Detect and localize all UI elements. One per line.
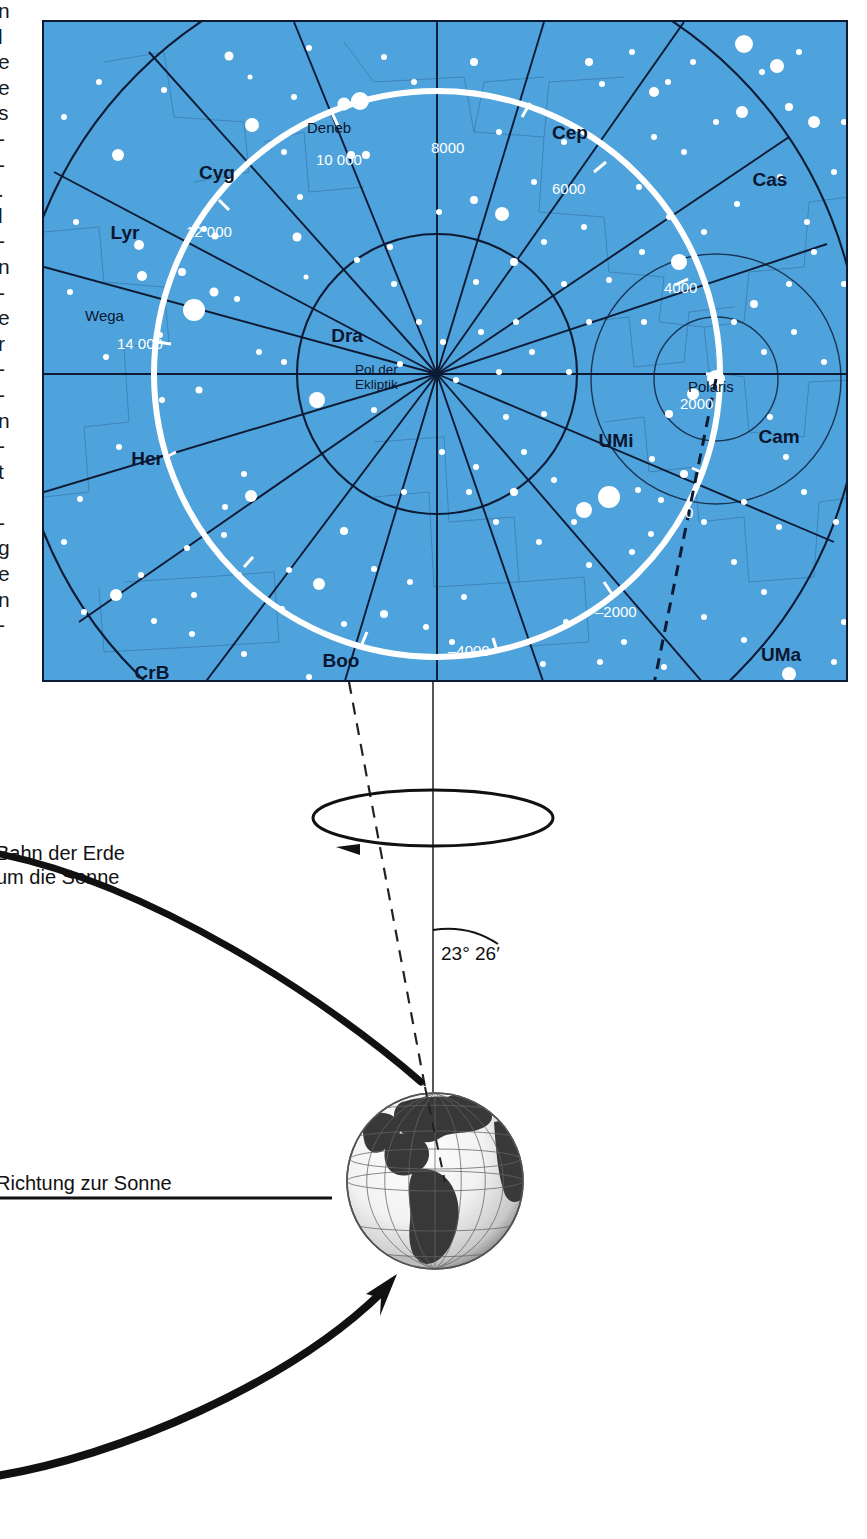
facing-page-char: e [0, 77, 10, 103]
facing-page-char: t [0, 461, 4, 487]
facing-page-char: e [0, 51, 10, 77]
precession-year-8000: 8000 [431, 139, 464, 156]
precession-year-6000: 6000 [552, 180, 585, 197]
star-chart-canvas: Cyg Lyr Cep Cas Dra Her UMi Cam CrB Boo … [44, 22, 848, 682]
facing-page-char: g [0, 537, 10, 563]
precession-direction-arrowhead [336, 844, 360, 855]
orbit-motion-arrowhead [366, 1274, 397, 1316]
obliquity-angle-arc [433, 929, 498, 944]
precession-year-10000: 10 000 [316, 151, 362, 168]
constellation-label-dra: Dra [331, 325, 363, 346]
ecliptic-pole-label-line1: Pol der [355, 362, 398, 377]
earth-axis-canvas: Bahn der Erde um die Sonne Richtung zur … [0, 682, 867, 1539]
facing-page-char: s [0, 102, 9, 128]
facing-page-char: - [0, 230, 5, 256]
star-label-deneb: Deneb [307, 119, 351, 136]
orbit-label-line2: um die Sonne [0, 866, 119, 888]
facing-page-char: n [0, 256, 10, 282]
orbit-label-line1: Bahn der Erde [0, 842, 125, 864]
facing-page-char: . [0, 179, 4, 205]
facing-page-char: n [0, 589, 10, 615]
constellation-label-her: Her [131, 448, 163, 469]
chart-background [44, 22, 848, 682]
sun-direction-label: Richtung zur Sonne [0, 1172, 172, 1194]
facing-page-char: - [0, 512, 5, 538]
constellation-label-boo: Boo [323, 650, 360, 671]
facing-page-char: l [0, 26, 3, 52]
earth-rotation-axis-dashed [349, 682, 425, 1087]
constellation-label-cas: Cas [753, 169, 788, 190]
precession-star-chart: Cyg Lyr Cep Cas Dra Her UMi Cam CrB Boo … [42, 20, 848, 682]
precession-year-0: 0 [685, 504, 693, 521]
constellation-label-cyg: Cyg [199, 162, 235, 183]
facing-page-text-column: nlees--.l-n-er--n-t-gen- [0, 0, 26, 700]
precession-year-4000: 4000 [664, 279, 697, 296]
facing-page-char: r [0, 333, 5, 359]
star-label-wega: Wega [85, 307, 125, 324]
facing-page-char: - [0, 282, 5, 308]
constellation-label-lyr: Lyr [111, 222, 140, 243]
facing-page-char: - [0, 384, 5, 410]
constellation-label-cam: Cam [758, 426, 799, 447]
ecliptic-pole-label-line2: Ekliptik [355, 377, 398, 392]
earth-globe [347, 1086, 536, 1277]
obliquity-angle-label: 23° 26′ [441, 943, 500, 964]
precession-year-12000: 12 000 [186, 223, 232, 240]
facing-page-char: - [0, 358, 5, 384]
facing-page-char: l [0, 205, 3, 231]
constellation-label-umi: UMi [599, 430, 634, 451]
precession-year-14000: 14 000 [117, 335, 163, 352]
constellation-label-cep: Cep [552, 122, 588, 143]
constellation-label-crb: CrB [135, 662, 170, 682]
facing-page-char: n [0, 0, 10, 26]
precession-year-minus4000: –4000 [448, 642, 490, 659]
precession-year-2000: 2000 [680, 395, 713, 412]
facing-page-char: e [0, 563, 10, 589]
facing-page-char: - [0, 128, 5, 154]
facing-page-char: - [0, 614, 5, 640]
precession-year-minus2000: –2000 [595, 603, 637, 620]
facing-page-char: n [0, 410, 10, 436]
orbit-motion-arrow-shaft [0, 1292, 382, 1477]
facing-page-char: - [0, 435, 5, 461]
facing-page-char: e [0, 307, 10, 333]
earth-axis-diagram: Bahn der Erde um die Sonne Richtung zur … [0, 682, 867, 1539]
star-label-polaris: Polaris [688, 378, 734, 395]
facing-page-char: - [0, 154, 5, 180]
constellation-label-uma: UMa [761, 644, 802, 665]
